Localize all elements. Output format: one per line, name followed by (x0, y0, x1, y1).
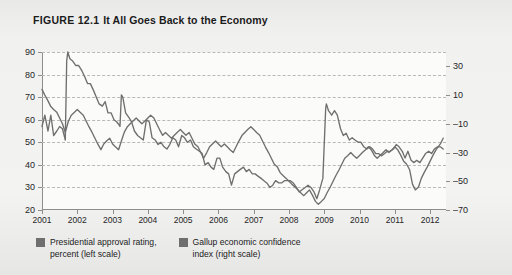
y-tick-right (446, 95, 450, 96)
series-line (42, 52, 443, 199)
x-tick (360, 210, 361, 214)
x-tick (324, 210, 325, 214)
y-tick-right (446, 181, 450, 182)
x-tick-label: 2005 (174, 215, 193, 225)
figure-caption: It All Goes Back to the Economy (103, 14, 267, 26)
legend-label-confidence: Gallup economic confidence index (right … (193, 237, 301, 260)
y-tick-label-left: 40 (25, 160, 35, 170)
y-tick-label-left: 70 (25, 92, 35, 102)
x-tick (42, 210, 43, 214)
x-tick (77, 210, 78, 214)
y-tick-right (446, 210, 450, 211)
x-tick-label: 2009 (315, 215, 334, 225)
y-tick-label-right: –70 (453, 205, 468, 215)
y-tick-label-left: 90 (25, 47, 35, 57)
y-tick-right (446, 153, 450, 154)
x-tick-label: 2001 (33, 215, 52, 225)
x-tick (183, 210, 184, 214)
x-tick-label: 2008 (280, 215, 299, 225)
y-tick-label-right: –10 (453, 119, 468, 129)
x-tick (218, 210, 219, 214)
y-tick-label-left: 30 (25, 182, 35, 192)
x-tick-label: 2007 (244, 215, 263, 225)
x-tick-label: 2004 (138, 215, 157, 225)
x-tick-label: 2002 (68, 215, 87, 225)
y-tick-label-right: –30 (453, 148, 468, 158)
x-tick-label: 2003 (103, 215, 122, 225)
y-tick-label-right: 10 (453, 90, 463, 100)
y-tick-label-left: 80 (25, 70, 35, 80)
x-tick-label: 2012 (421, 215, 440, 225)
x-tick (113, 210, 114, 214)
legend-item-approval: Presidential approval rating, percent (l… (36, 237, 157, 260)
x-tick (148, 210, 149, 214)
x-tick (254, 210, 255, 214)
y-tick-label-right: –50 (453, 176, 468, 186)
series-lines (42, 52, 446, 210)
figure-number: FIGURE 12.1 (33, 14, 99, 26)
y-tick-right (446, 66, 450, 67)
legend-swatch-confidence (179, 238, 188, 247)
x-tick (395, 210, 396, 214)
x-tick-label: 2011 (386, 215, 404, 225)
figure-title: FIGURE 12.1It All Goes Back to the Econo… (33, 14, 268, 26)
figure-container: FIGURE 12.1It All Goes Back to the Econo… (0, 0, 512, 275)
x-tick (430, 210, 431, 214)
y-tick-label-left: 50 (25, 137, 35, 147)
y-tick-right (446, 124, 450, 125)
chart-plot: 2030405060708090 –70–50–30–101030 200120… (42, 52, 446, 210)
chart-legend: Presidential approval rating, percent (l… (36, 237, 301, 260)
legend-item-confidence: Gallup economic confidence index (right … (179, 237, 301, 260)
y-tick-label-left: 60 (25, 115, 35, 125)
x-tick-label: 2010 (350, 215, 369, 225)
y-tick-label-right: 30 (453, 61, 463, 71)
y-tick-label-left: 20 (25, 205, 35, 215)
x-tick-label: 2006 (209, 215, 228, 225)
legend-label-approval: Presidential approval rating, percent (l… (50, 237, 157, 260)
legend-swatch-approval (36, 238, 45, 247)
x-tick (289, 210, 290, 214)
